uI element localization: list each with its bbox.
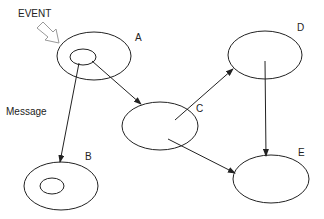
edge-a-to-c — [92, 61, 141, 104]
node-a-label: A — [135, 32, 142, 43]
node-b-label: B — [85, 151, 92, 162]
edge-d-to-e — [265, 61, 266, 156]
node-e[interactable]: E — [233, 147, 309, 203]
node-d[interactable]: D — [228, 22, 304, 79]
node-d-label: D — [297, 22, 304, 33]
edge-c-to-d — [175, 69, 233, 120]
node-c-label: C — [196, 103, 203, 114]
event-arrow-icon — [37, 22, 59, 43]
node-e-label: E — [298, 147, 305, 158]
node-a[interactable]: A — [57, 32, 142, 80]
message-label: Message — [6, 106, 47, 117]
state-diagram: EVENT Message A B C D E — [0, 0, 324, 219]
edge-c-to-e — [168, 139, 235, 173]
node-c[interactable]: C — [122, 102, 203, 150]
node-b[interactable]: B — [24, 151, 98, 210]
event-label: EVENT — [18, 8, 51, 19]
edge-a-to-b — [60, 63, 79, 162]
